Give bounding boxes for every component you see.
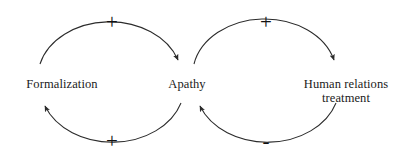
causal-loop-diagram: Formalization Apathy Human relations tre… — [0, 0, 397, 166]
node-formalization-text: Formalization — [26, 77, 97, 91]
node-human-relations-text: Human relations — [304, 77, 388, 91]
polarity-marker-left-bottom: + — [103, 131, 121, 152]
node-label-formalization: Formalization — [2, 77, 122, 91]
polarity-marker-right-top: + — [257, 12, 275, 33]
polarity-marker-right-bottom: - — [257, 131, 275, 152]
node-human-relations-text-line2: treatment — [296, 91, 396, 105]
node-label-apathy: Apathy — [152, 77, 222, 91]
polarity-marker-left-top: + — [103, 12, 121, 33]
node-label-human-relations: Human relations treatment — [296, 77, 396, 105]
node-apathy-text: Apathy — [168, 77, 205, 91]
